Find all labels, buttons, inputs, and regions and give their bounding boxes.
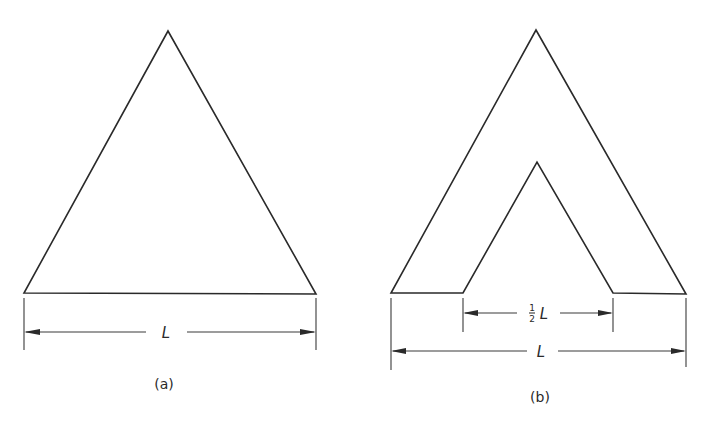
fraction-variable: L	[540, 305, 548, 323]
figure-canvas: L (a) 1 2 L L (b)	[0, 0, 711, 421]
arrowhead-outer-left-b	[391, 348, 406, 354]
panel-a: L (a)	[24, 31, 316, 392]
chevron-b	[391, 30, 686, 294]
dimension-label-a: L	[162, 324, 170, 342]
caption-a: (a)	[154, 376, 174, 392]
triangle-a	[24, 31, 316, 294]
arrowhead-inner-right-b	[598, 310, 613, 316]
fraction-numerator: 1	[529, 303, 535, 313]
caption-b: (b)	[530, 389, 550, 405]
panel-b: 1 2 L L (b)	[391, 30, 686, 405]
dimension-label-inner-b: 1 2 L	[529, 303, 548, 324]
arrowhead-inner-left-b	[463, 310, 478, 316]
arrowhead-left-a	[24, 329, 40, 335]
fraction-denominator: 2	[529, 314, 535, 324]
arrowhead-right-a	[300, 329, 316, 335]
dimension-label-outer-b: L	[537, 343, 545, 361]
arrowhead-outer-right-b	[671, 348, 686, 354]
